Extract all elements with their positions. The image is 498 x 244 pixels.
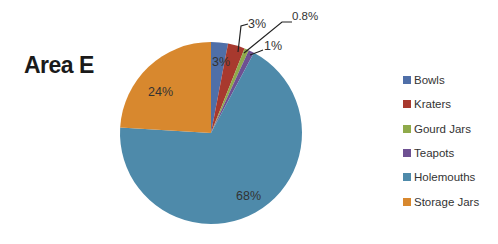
legend-item-kraters: Kraters	[403, 92, 479, 116]
legend-item-storage-jars: Storage Jars	[403, 189, 479, 213]
legend-label: Kraters	[414, 98, 451, 110]
legend-item-gourd-jars: Gourd Jars	[403, 117, 479, 141]
data-label-bowls: 3%	[212, 55, 230, 69]
legend-label: Storage Jars	[414, 196, 479, 208]
data-label-holemouths: 68%	[236, 189, 261, 203]
data-label-gourd-jars: 0.8%	[292, 10, 318, 22]
legend-swatch	[403, 76, 411, 84]
legend-label: Gourd Jars	[414, 123, 471, 135]
legend-swatch	[403, 100, 411, 108]
legend-item-teapots: Teapots	[403, 141, 479, 165]
legend-swatch	[403, 173, 411, 181]
legend-label: Bowls	[414, 74, 445, 86]
data-label-kraters: 3%	[248, 17, 266, 31]
legend-item-bowls: Bowls	[403, 68, 479, 92]
legend-label: Holemouths	[414, 171, 475, 183]
legend-label: Teapots	[414, 147, 454, 159]
legend-item-holemouths: Holemouths	[403, 165, 479, 189]
legend-swatch	[403, 149, 411, 157]
legend: BowlsKratersGourd JarsTeapotsHolemouthsS…	[403, 68, 479, 214]
legend-swatch	[403, 125, 411, 133]
legend-swatch	[403, 198, 411, 206]
data-label-storage-jars: 24%	[148, 85, 173, 99]
data-label-teapots: 1%	[264, 39, 282, 53]
